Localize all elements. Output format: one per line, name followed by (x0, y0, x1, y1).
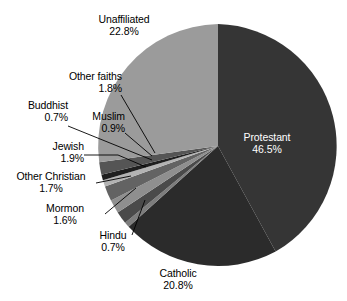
slice-label-mormon-name: Mormon (33, 202, 97, 214)
slice-label-unaffiliated: Unaffiliated 22.8% (78, 13, 170, 37)
slice-label-unaffiliated-pct: 22.8% (78, 25, 170, 37)
slice-label-protestant: Protestant 46.5% (222, 131, 312, 155)
pie-chart: Unaffiliated 22.8% Protestant 46.5% Cath… (0, 0, 347, 301)
slice-label-other-christian: Other Christian 1.7% (6, 170, 96, 194)
slice-label-catholic: Catholic 20.8% (143, 267, 213, 291)
slice-label-muslim: Muslim 0.9% (63, 110, 125, 134)
slice-label-buddhist: Buddhist 0.7% (8, 99, 68, 123)
slice-label-other-christian-name: Other Christian (6, 170, 96, 182)
slice-label-mormon: Mormon 1.6% (33, 202, 97, 226)
slice-label-other-faiths-pct: 1.8% (40, 82, 122, 94)
slice-label-buddhist-name: Buddhist (8, 99, 68, 111)
slice-label-other-faiths: Other faiths 1.8% (40, 70, 122, 94)
slice-label-buddhist-pct: 0.7% (8, 111, 68, 123)
slice-label-jewish: Jewish 1.9% (26, 140, 84, 164)
slice-label-hindu: Hindu 0.7% (85, 229, 141, 253)
slice-label-hindu-name: Hindu (85, 229, 141, 241)
slice-label-hindu-pct: 0.7% (85, 241, 141, 253)
slice-label-muslim-name: Muslim (63, 110, 125, 122)
slice-label-mormon-pct: 1.6% (33, 214, 97, 226)
slice-label-catholic-name: Catholic (143, 267, 213, 279)
slice-label-jewish-name: Jewish (26, 140, 84, 152)
slice-label-jewish-pct: 1.9% (26, 152, 84, 164)
slice-label-other-christian-pct: 1.7% (6, 182, 96, 194)
slice-label-unaffiliated-name: Unaffiliated (78, 13, 170, 25)
slice-label-other-faiths-name: Other faiths (40, 70, 122, 82)
slice-label-protestant-pct: 46.5% (222, 143, 312, 155)
slice-label-protestant-name: Protestant (222, 131, 312, 143)
slice-label-muslim-pct: 0.9% (63, 122, 125, 134)
slice-label-catholic-pct: 20.8% (143, 279, 213, 291)
